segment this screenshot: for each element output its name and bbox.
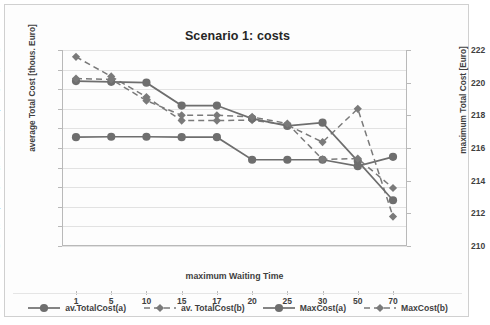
legend-item-label: MaxCost(a) xyxy=(300,303,346,313)
y-axis-right-tick-label: 220 xyxy=(471,78,490,88)
data-point-marker xyxy=(248,156,256,164)
legend-item-label: av. TotalCost(b) xyxy=(181,303,245,313)
y-axis-right-tick-mark xyxy=(407,115,411,116)
y-axis-right-title: maximum Total Cost [Euro] xyxy=(458,20,468,180)
legend-diamond-icon xyxy=(143,302,177,314)
y-axis-right-tick-label: 214 xyxy=(471,176,490,186)
series-line xyxy=(76,137,393,166)
data-point-marker xyxy=(389,196,397,204)
legend-item-3[interactable]: MaxCost(a) xyxy=(262,302,346,314)
legend-item-label: av.TotalCost(a) xyxy=(65,303,126,313)
series-4 xyxy=(72,74,397,192)
data-point-marker xyxy=(72,53,80,61)
y-axis-right-tick-label: 216 xyxy=(471,143,490,153)
plot-area: 100102104106108110112114116118120 210212… xyxy=(62,50,407,246)
y-axis-right-tick-mark xyxy=(407,148,411,149)
legend-divider xyxy=(13,293,462,294)
data-point-marker xyxy=(142,133,150,141)
data-point-marker xyxy=(283,156,291,164)
data-point-marker xyxy=(318,119,326,127)
data-point-marker xyxy=(178,101,186,109)
y-axis-right-tick-label: 218 xyxy=(471,110,490,120)
legend-diamond-icon xyxy=(363,302,397,314)
chart-legend: av.TotalCost(a)av. TotalCost(b)MaxCost(a… xyxy=(13,297,462,319)
y-axis-left-tick-mark xyxy=(58,246,62,247)
series-layer xyxy=(62,50,407,246)
data-point-marker xyxy=(389,153,397,161)
data-point-marker xyxy=(72,133,80,141)
data-point-marker xyxy=(213,111,221,119)
data-point-marker xyxy=(178,133,186,141)
y-axis-right-tick-mark xyxy=(407,181,411,182)
legend-item-2[interactable]: av. TotalCost(b) xyxy=(143,302,245,314)
y-axis-right-tick-label: 212 xyxy=(471,208,490,218)
chart-frame: Scenario 1: costs average Total Cost [th… xyxy=(4,4,469,317)
series-line xyxy=(76,81,393,200)
y-axis-right-tick-mark xyxy=(407,83,411,84)
x-axis-title: maximum Waiting Time xyxy=(62,271,407,281)
gridline xyxy=(62,246,407,247)
data-point-marker xyxy=(142,79,150,87)
legend-item-1[interactable]: av.TotalCost(a) xyxy=(27,302,126,314)
chart-title: Scenario 1: costs xyxy=(5,29,470,43)
y-axis-right-tick-mark xyxy=(407,246,411,247)
data-point-marker xyxy=(213,133,221,141)
series-3 xyxy=(72,77,397,204)
y-axis-right-tick-label: 222 xyxy=(471,45,490,55)
data-point-marker xyxy=(107,133,115,141)
y-axis-right-tick-mark xyxy=(407,50,411,51)
data-point-marker xyxy=(389,184,397,192)
y-axis-left-title: average Total Cost [thous. Euro] xyxy=(27,0,37,178)
data-point-marker xyxy=(213,101,221,109)
legend-item-label: MaxCost(b) xyxy=(401,303,448,313)
series-line xyxy=(76,79,393,188)
data-point-marker xyxy=(178,111,186,119)
legend-circle-icon xyxy=(262,302,296,314)
y-axis-right-tick-label: 210 xyxy=(471,241,490,251)
data-point-marker xyxy=(389,213,397,221)
legend-item-4[interactable]: MaxCost(b) xyxy=(363,302,448,314)
y-axis-right-tick-mark xyxy=(407,213,411,214)
legend-circle-icon xyxy=(27,302,61,314)
